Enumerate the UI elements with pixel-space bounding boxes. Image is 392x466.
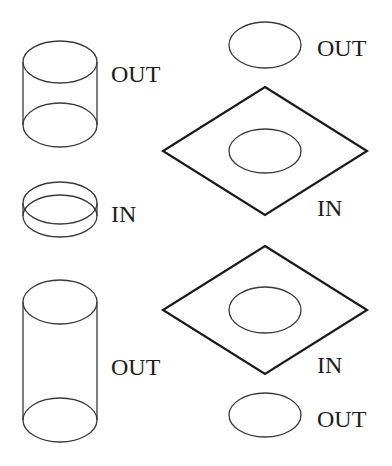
label-ring: IN <box>111 201 136 227</box>
label-diamond-bottom: IN <box>317 352 342 378</box>
ellipse-top <box>229 22 301 68</box>
diagram-canvas: OUT IN OUT OUT IN IN OUT <box>0 0 392 466</box>
cylinder-top <box>23 41 97 147</box>
ellipse-bottom <box>229 393 301 437</box>
label-diamond-top: IN <box>317 195 342 221</box>
label-ellipse-bottom: OUT <box>317 406 367 432</box>
cylinder-tall <box>23 280 97 442</box>
ring-short-cylinder <box>23 182 97 237</box>
label-cylinder-tall: OUT <box>111 354 161 380</box>
label-cylinder-top: OUT <box>111 61 161 87</box>
label-ellipse-top: OUT <box>317 35 367 61</box>
